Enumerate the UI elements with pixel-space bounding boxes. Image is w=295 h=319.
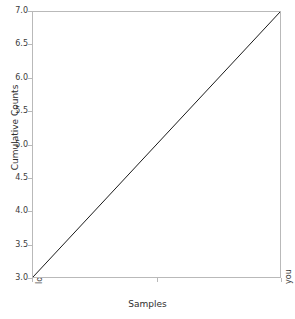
plot-svg bbox=[33, 12, 280, 277]
x-tick-label: you bbox=[285, 269, 293, 284]
y-tick-label: 3.0 bbox=[0, 274, 28, 282]
x-tick-mark bbox=[32, 278, 33, 282]
plot-area bbox=[32, 11, 281, 278]
y-tick-label: 4.0 bbox=[0, 207, 28, 215]
y-tick-label: 7.0 bbox=[0, 7, 28, 15]
x-tick-mark bbox=[157, 278, 158, 282]
y-tick-label: 3.5 bbox=[0, 241, 28, 249]
x-tick-mark bbox=[281, 278, 282, 282]
cumulative-counts-line bbox=[33, 12, 280, 277]
chart-figure: 7.06.56.05.55.04.54.03.53.0 loveyou Samp… bbox=[0, 0, 295, 319]
y-tick-label: 6.5 bbox=[0, 40, 28, 48]
y-axis-label: Cumulative Counts bbox=[11, 58, 20, 198]
x-axis-label: Samples bbox=[0, 300, 295, 309]
